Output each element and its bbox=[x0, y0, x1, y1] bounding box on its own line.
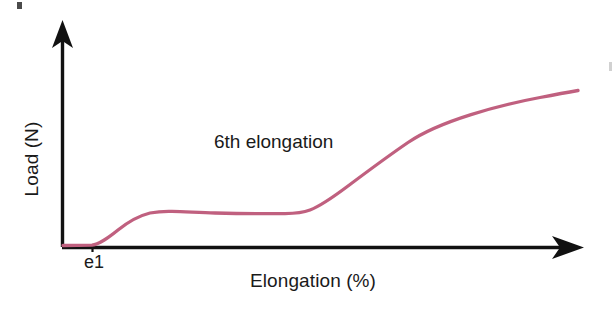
scan-artifact-right-edge bbox=[609, 62, 612, 71]
curve-load-elongation bbox=[63, 91, 578, 246]
chart-figure: Load (N) Elongation (%) e1 6th elongatio… bbox=[0, 0, 615, 313]
curve-annotation-label: 6th elongation bbox=[214, 131, 333, 153]
x-axis-tick-label-e1: e1 bbox=[84, 252, 104, 273]
scan-artifact-top-left bbox=[17, 2, 22, 9]
x-axis-label: Elongation (%) bbox=[250, 270, 376, 292]
y-axis-label: Load (N) bbox=[21, 104, 43, 214]
